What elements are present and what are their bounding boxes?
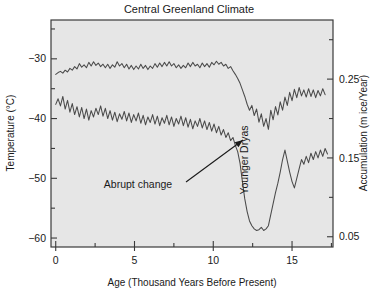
y-right-tick-label: 0.15 xyxy=(339,152,360,164)
x-tick-label: 10 xyxy=(207,254,219,266)
y-right-tick-label: 0.05 xyxy=(339,230,360,242)
annotation-younger-dryas: Younger Dryas xyxy=(238,125,250,194)
y-right-tick-label: 0.25 xyxy=(339,73,360,85)
y-left-tick-label: −50 xyxy=(28,172,46,184)
x-tick-label: 15 xyxy=(286,254,298,266)
figure-container: Central Greenland Climate −30−40−50−60 0… xyxy=(0,0,378,293)
y-left-tick-label: −30 xyxy=(28,52,46,64)
x-axis-label: Age (Thousand Years Before Present) xyxy=(108,277,277,288)
y-axis-right-label: Accumulation (m ice/Year) xyxy=(358,75,369,191)
chart-title: Central Greenland Climate xyxy=(124,3,254,15)
annotation-abrupt-change: Abrupt change xyxy=(104,178,172,190)
x-tick-label: 5 xyxy=(132,254,138,266)
y-axis-left-label: Temperature (°C) xyxy=(5,95,16,172)
y-left-tick-label: −60 xyxy=(28,232,46,244)
climate-chart: Central Greenland Climate −30−40−50−60 0… xyxy=(0,0,378,293)
y-left-tick-label: −40 xyxy=(28,112,46,124)
x-tick-label: 0 xyxy=(53,254,59,266)
plot-area-background xyxy=(51,20,333,247)
